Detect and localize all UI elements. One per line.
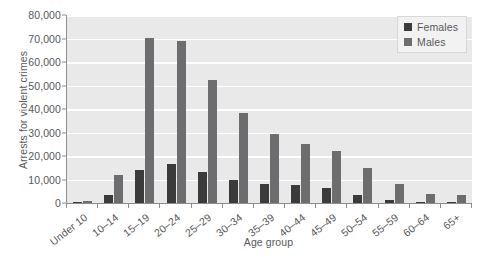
x-tick-mark	[159, 204, 160, 208]
x-tick-mark	[191, 204, 192, 208]
bar-group	[285, 15, 316, 203]
bar-females	[322, 188, 331, 203]
x-tick-mark	[97, 204, 98, 208]
bar-males	[301, 144, 310, 203]
legend-item-females[interactable]: Females	[404, 21, 458, 33]
bar-males	[208, 80, 217, 203]
bar-group	[67, 15, 98, 203]
x-tick-mark	[440, 204, 441, 208]
x-tick-mark	[409, 204, 410, 208]
bar-chart: Arrests for violent crimes 010,00020,000…	[0, 0, 477, 257]
bar-females	[385, 200, 394, 203]
x-tick-mark	[66, 204, 67, 208]
bar-females	[353, 195, 362, 203]
bar-males	[457, 195, 466, 203]
bar-group	[129, 15, 160, 203]
x-tick-mark	[128, 204, 129, 208]
y-tick-label: 20,000	[28, 150, 61, 162]
x-tick-mark	[471, 204, 472, 208]
y-tick-label: 60,000	[28, 56, 61, 68]
y-tick-label: 80,000	[28, 9, 61, 21]
bar-males	[239, 113, 248, 203]
bar-males	[114, 175, 123, 203]
y-tick-label: 0	[55, 197, 61, 209]
y-tick-label: 50,000	[28, 80, 61, 92]
bar-group	[254, 15, 285, 203]
x-tick-mark	[378, 204, 379, 208]
bar-females	[416, 202, 425, 203]
legend-swatch-icon	[404, 38, 412, 46]
bar-females	[260, 184, 269, 203]
y-tick-label: 40,000	[28, 103, 61, 115]
y-tick-label: 10,000	[28, 174, 61, 186]
bar-males	[270, 134, 279, 203]
x-tick-mark	[315, 204, 316, 208]
x-tick-mark	[284, 204, 285, 208]
legend-label: Males	[417, 36, 446, 48]
bar-males	[395, 184, 404, 203]
bar-group	[160, 15, 191, 203]
x-axis-title: Age group	[66, 236, 471, 248]
bar-females	[229, 180, 238, 204]
y-tick-label: 30,000	[28, 127, 61, 139]
y-tick-label: 70,000	[28, 33, 61, 45]
bar-group	[223, 15, 254, 203]
bar-males	[145, 38, 154, 203]
bar-males	[332, 151, 341, 203]
bar-males	[426, 194, 435, 203]
x-tick-mark	[253, 204, 254, 208]
x-tick-mark	[346, 204, 347, 208]
bar-females	[447, 202, 456, 203]
bar-males	[177, 41, 186, 203]
x-tick-mark	[222, 204, 223, 208]
bar-females	[135, 170, 144, 203]
legend-swatch-icon	[404, 23, 412, 31]
bar-group	[192, 15, 223, 203]
bar-females	[167, 164, 176, 203]
bar-males	[83, 201, 92, 203]
legend: FemalesMales	[397, 16, 467, 53]
bar-group	[347, 15, 378, 203]
y-axis-ticks: 010,00020,00030,00040,00050,00060,00070,…	[14, 0, 66, 257]
bar-group	[316, 15, 347, 203]
legend-label: Females	[417, 21, 458, 33]
bar-group	[98, 15, 129, 203]
legend-item-males[interactable]: Males	[404, 36, 458, 48]
bar-females	[198, 172, 207, 203]
bar-males	[363, 168, 372, 203]
bar-females	[104, 195, 113, 203]
bar-females	[291, 185, 300, 203]
bar-females	[73, 202, 82, 203]
